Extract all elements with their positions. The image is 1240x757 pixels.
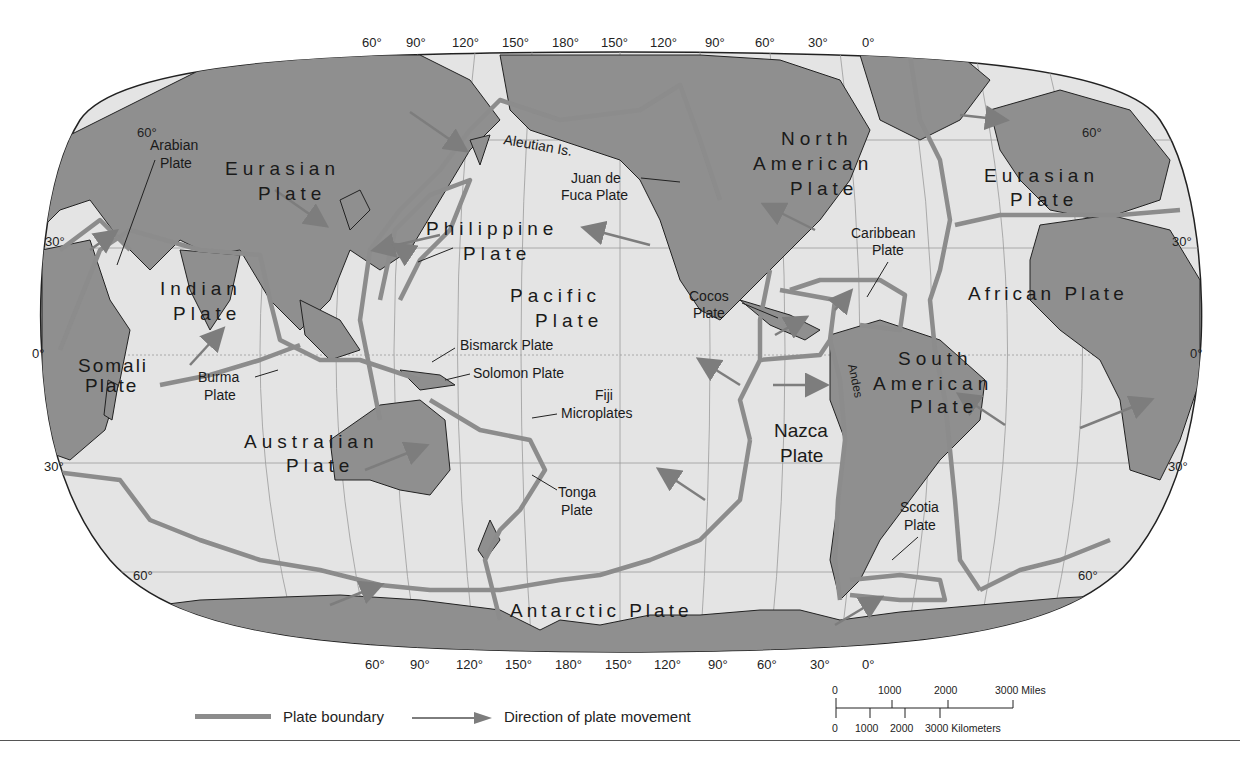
svg-text:120°: 120°	[650, 35, 677, 50]
svg-text:Solomon Plate: Solomon Plate	[473, 365, 564, 381]
svg-text:60°: 60°	[365, 657, 385, 672]
top-longitude-labels: 60° 90° 120° 150° 180° 150° 120° 90° 60°…	[362, 35, 874, 50]
bottom-divider	[0, 740, 1240, 741]
svg-text:30°: 30°	[1168, 459, 1188, 474]
svg-text:120°: 120°	[654, 657, 681, 672]
scale-mile-2000: 2000	[934, 684, 958, 696]
svg-text:North: North	[781, 128, 852, 149]
svg-text:Plate: Plate	[535, 310, 603, 331]
svg-text:30°: 30°	[45, 234, 65, 249]
svg-text:Burma: Burma	[198, 369, 239, 385]
scale-km-0: 0	[832, 722, 838, 734]
svg-text:Plate: Plate	[286, 455, 354, 476]
scale-mile-1000: 1000	[878, 684, 902, 696]
svg-text:120°: 120°	[452, 35, 479, 50]
svg-text:Somali: Somali	[78, 355, 148, 376]
svg-text:Bismarck Plate: Bismarck Plate	[460, 337, 554, 353]
svg-text:Fiji: Fiji	[595, 387, 613, 403]
svg-text:Plate: Plate	[790, 178, 858, 199]
svg-text:Pacific: Pacific	[510, 285, 601, 306]
svg-text:30°: 30°	[808, 35, 828, 50]
plate-boundary-swatch	[195, 714, 271, 719]
svg-text:Australian: Australian	[244, 431, 379, 452]
movement-arrow-icon	[412, 710, 492, 722]
svg-text:Plate: Plate	[780, 445, 823, 466]
svg-text:30°: 30°	[44, 459, 64, 474]
svg-text:Plate: Plate	[693, 305, 725, 321]
svg-text:Scotia: Scotia	[900, 499, 939, 515]
plate-boundary-label: Plate boundary	[283, 708, 384, 725]
svg-text:Indian: Indian	[160, 278, 242, 299]
svg-text:60°: 60°	[362, 35, 382, 50]
svg-text:90°: 90°	[406, 35, 426, 50]
svg-text:30°: 30°	[1172, 234, 1192, 249]
svg-text:American: American	[873, 373, 993, 394]
svg-text:60°: 60°	[1082, 125, 1102, 140]
scale-km-2000: 2000	[890, 722, 914, 734]
svg-text:Juan de: Juan de	[571, 170, 621, 186]
svg-text:60°: 60°	[755, 35, 775, 50]
map-legend: Plate boundary Direction of plate moveme…	[195, 704, 691, 728]
svg-text:30°: 30°	[810, 657, 830, 672]
svg-text:Eurasian: Eurasian	[984, 165, 1099, 186]
svg-text:Caribbean: Caribbean	[851, 225, 916, 241]
svg-text:Plate: Plate	[204, 387, 236, 403]
svg-text:Plate: Plate	[904, 517, 936, 533]
svg-text:South: South	[898, 348, 973, 369]
svg-text:Eurasian: Eurasian	[225, 158, 340, 179]
label-antarctic-plate: Antarctic Plate	[510, 600, 693, 621]
scale-mile-0: 0	[832, 684, 838, 696]
svg-text:60°: 60°	[133, 568, 153, 583]
svg-text:0°: 0°	[862, 657, 874, 672]
svg-text:Plate: Plate	[872, 242, 904, 258]
svg-text:90°: 90°	[410, 657, 430, 672]
svg-text:90°: 90°	[705, 35, 725, 50]
svg-text:150°: 150°	[502, 35, 529, 50]
svg-text:60°: 60°	[757, 657, 777, 672]
label-somali-plate: Somali Plate	[78, 355, 148, 396]
movement-label: Direction of plate movement	[504, 708, 691, 725]
scale-km-1000: 1000	[855, 722, 879, 734]
svg-text:Plate: Plate	[160, 155, 192, 171]
svg-text:Arabian: Arabian	[150, 137, 198, 153]
svg-text:Plate: Plate	[1010, 189, 1078, 210]
svg-text:0°: 0°	[32, 346, 44, 361]
svg-text:Plate: Plate	[173, 303, 241, 324]
svg-text:Plate: Plate	[910, 396, 978, 417]
svg-text:180°: 180°	[552, 35, 579, 50]
bottom-longitude-labels: 60° 90° 120° 150° 180° 150° 120° 90° 60°…	[365, 657, 874, 672]
svg-text:60°: 60°	[1078, 568, 1098, 583]
svg-text:150°: 150°	[505, 657, 532, 672]
svg-text:Nazca: Nazca	[774, 420, 828, 441]
tectonic-plates-map: 60° 90° 120° 150° 180° 150° 120° 90° 60°…	[0, 0, 1240, 757]
svg-text:Plate: Plate	[561, 502, 593, 518]
svg-text:150°: 150°	[601, 35, 628, 50]
svg-text:90°: 90°	[708, 657, 728, 672]
svg-text:180°: 180°	[555, 657, 582, 672]
svg-text:Microplates: Microplates	[561, 405, 633, 421]
svg-text:Fuca Plate: Fuca Plate	[561, 187, 628, 203]
label-african-plate: African Plate	[968, 283, 1128, 304]
svg-text:Plate: Plate	[85, 375, 138, 396]
svg-text:Cocos: Cocos	[689, 288, 729, 304]
svg-text:Philippine: Philippine	[426, 218, 558, 239]
svg-text:American: American	[753, 153, 873, 174]
svg-text:0°: 0°	[862, 35, 874, 50]
svg-text:Tonga: Tonga	[558, 484, 596, 500]
svg-text:Antarctic Plate: Antarctic Plate	[510, 600, 693, 621]
scale-mile-3000: 3000 Miles	[995, 684, 1046, 696]
svg-text:0°: 0°	[1190, 346, 1202, 361]
svg-text:120°: 120°	[456, 657, 483, 672]
scale-km-3000: 3000 Kilometers	[925, 722, 1001, 734]
scale-bar: 0 1000 2000 3000 Miles 0 1000 2000 3000 …	[830, 676, 1070, 736]
svg-text:African Plate: African Plate	[968, 283, 1128, 304]
svg-text:Plate: Plate	[463, 243, 531, 264]
svg-text:Plate: Plate	[258, 183, 326, 204]
svg-text:150°: 150°	[605, 657, 632, 672]
